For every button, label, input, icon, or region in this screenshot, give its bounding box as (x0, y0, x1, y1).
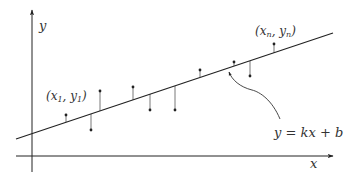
data-point (90, 129, 93, 132)
x-axis-label: x (310, 156, 318, 171)
equation-pointer-arrow (229, 72, 280, 119)
data-point (199, 69, 202, 72)
data-point (233, 61, 236, 64)
equation-label: y = kx + b (273, 125, 343, 140)
data-point (149, 109, 152, 112)
data-point (65, 114, 68, 117)
data-point (132, 86, 135, 89)
data-point (99, 90, 102, 93)
first-point-label: (x1, y1) (46, 89, 87, 104)
data-point (273, 43, 276, 46)
data-point (249, 75, 252, 78)
data-point (174, 109, 177, 112)
last-point-label: (xn, yn) (255, 24, 296, 39)
regression-diagram: y x (x1, y1) (xn, yn) y = kx + b (0, 0, 347, 181)
regression-line (16, 33, 333, 139)
y-axis-label: y (38, 18, 47, 33)
